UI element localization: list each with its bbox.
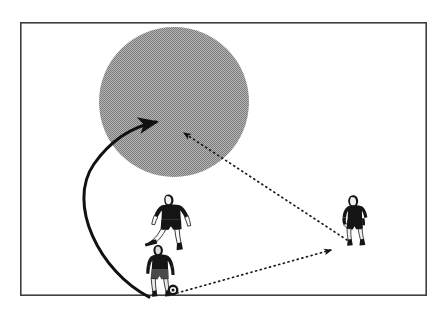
target-zone-circle [99,27,249,177]
diagram-canvas: Soccer Tactical Drill Diagram [0,0,445,317]
tactical-diagram-svg [0,0,445,317]
